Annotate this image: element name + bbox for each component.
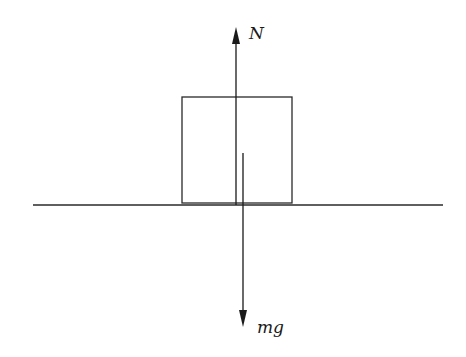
arrowhead-down-icon [239, 310, 247, 327]
block [182, 97, 292, 203]
arrowhead-up-icon [232, 27, 240, 44]
normal-force-arrow [232, 27, 240, 205]
free-body-diagram: N mg [0, 0, 466, 357]
weight-force-label: mg [257, 317, 284, 337]
normal-force-label: N [248, 23, 265, 43]
weight-force-arrow [239, 153, 247, 327]
